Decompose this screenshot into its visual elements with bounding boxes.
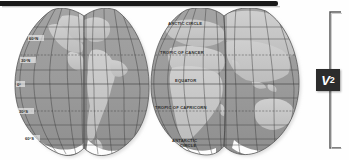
latitude-label: 60°S [24,135,40,141]
badge-subscript: 2 [330,75,335,85]
named-circle-label-equator: EQUATOR [175,78,196,83]
latitude-label: 30°N [20,57,36,63]
latitude-label: 60°N [28,35,44,41]
lobe-asia-australia [224,8,299,156]
latitude-label-text: 30°N [21,58,30,63]
latitude-label-text: 60°S [25,136,34,141]
latitude-label-text: 30°S [19,109,28,114]
map-lobes-group [15,8,299,157]
lobe-north-america-west [15,8,84,155]
badge-letter: V [321,73,330,88]
world-map-figure: 60°N 30°N 0° 30°S 60°S [0,8,305,160]
latitude-label: 30°S [18,108,34,114]
named-circle-label-antarctic-line2: CIRCLE [180,143,196,148]
named-circle-label-capricorn: TROPIC OF CAPRICORN [155,105,207,110]
named-circle-label-cancer: TROPIC OF CANCER [160,50,204,55]
figure-label-badge: V2 [316,69,340,91]
named-circle-label-arctic: ARCTIC CIRCLE [168,21,202,26]
latitude-label: 0° [16,81,25,87]
interrupted-projection-svg: 60°N 30°N 0° 30°S 60°S [0,8,305,160]
figure-canvas: 60°N 30°N 0° 30°S 60°S [0,0,349,160]
latitude-label-text: 0° [17,82,21,87]
latitude-label-text: 60°N [29,36,38,41]
